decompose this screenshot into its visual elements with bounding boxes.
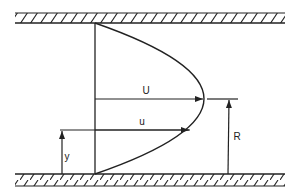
distance-label: y bbox=[65, 151, 70, 162]
top-wall-hatching bbox=[15, 13, 285, 23]
max-velocity-label: U bbox=[142, 85, 149, 96]
bottom-wall-hatching bbox=[15, 174, 285, 186]
radius-arrow bbox=[228, 100, 229, 174]
top-wall bbox=[15, 13, 285, 23]
radius-label: R bbox=[233, 131, 240, 142]
local-velocity-label: u bbox=[139, 116, 145, 127]
bottom-wall bbox=[15, 174, 285, 186]
velocity-profile-diagram: U R u y bbox=[0, 0, 296, 195]
